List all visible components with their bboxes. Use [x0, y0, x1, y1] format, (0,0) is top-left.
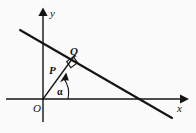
y-axis-label: y [50, 8, 55, 19]
point-label-p: P [49, 65, 56, 76]
angle-alpha-arc [63, 78, 68, 99]
y-axis-arrowhead-icon [38, 8, 47, 17]
figure-canvas [0, 0, 196, 133]
angle-label-alpha: α [57, 87, 63, 97]
x-axis-label: x [177, 103, 182, 114]
point-label-q: Q [70, 46, 78, 57]
origin-label: O [33, 103, 41, 114]
geometry-figure: y x O P Q α [0, 0, 196, 133]
